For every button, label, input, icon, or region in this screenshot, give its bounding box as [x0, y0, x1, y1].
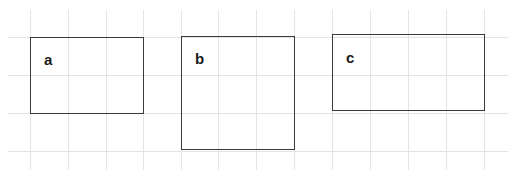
rectangle-b-label: b	[195, 51, 204, 66]
rectangle-a-label: a	[44, 52, 52, 67]
rectangle-c-label: c	[346, 50, 354, 65]
grid-diagram: a b c	[0, 0, 510, 178]
rectangle-a	[30, 37, 144, 114]
rectangle-c	[332, 34, 485, 111]
grid-line-horizontal	[8, 151, 508, 152]
